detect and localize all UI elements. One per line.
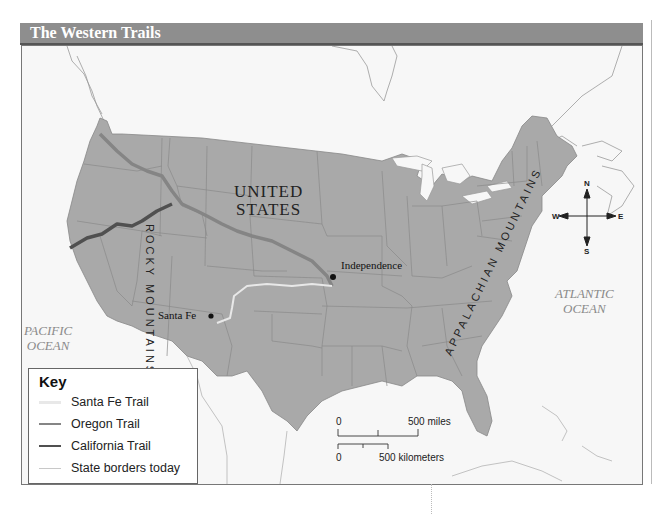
key-item-oregon-trail: Oregon Trail xyxy=(39,415,140,433)
city-label-santa-fe: Santa Fe xyxy=(158,309,196,321)
compass-west-label: W xyxy=(552,212,560,221)
key-item-label: California Trail xyxy=(71,439,151,453)
key-item-santa-fe-trail: Santa Fe Trail xyxy=(39,393,149,411)
scale-km-end: 500 kilometers xyxy=(379,452,444,463)
scale-km-start: 0 xyxy=(336,452,342,463)
atlantic-ocean-label: ATLANTIC OCEAN xyxy=(555,286,614,316)
compass-north-label: N xyxy=(584,179,590,188)
map-frame: UNITED STATES ROCKY MOUNTAINS APPALACHIA… xyxy=(21,45,643,485)
santa-fe-dot xyxy=(208,313,213,318)
compass-rose xyxy=(559,189,616,246)
scale-miles-start: 0 xyxy=(336,416,342,427)
page-margin-rule xyxy=(651,20,652,484)
scale-bars xyxy=(338,429,418,449)
page-dotted-rule xyxy=(431,484,432,514)
oregon-trail-swatch xyxy=(39,423,61,425)
pacific-line-2: OCEAN xyxy=(24,338,72,353)
pacific-ocean-label: PACIFIC OCEAN xyxy=(24,323,72,353)
key-title: Key xyxy=(39,373,67,390)
city-label-independence: Independence xyxy=(341,259,402,271)
map-key: Key Santa Fe Trail Oregon Trail Californ… xyxy=(28,368,198,484)
key-item-label: Santa Fe Trail xyxy=(71,395,149,409)
california-trail-swatch xyxy=(39,445,61,447)
compass-east-label: E xyxy=(618,212,623,221)
key-item-california-trail: California Trail xyxy=(39,437,151,455)
compass-south-label: S xyxy=(584,247,589,256)
map-title-bar: The Western Trails xyxy=(20,23,643,45)
country-line-2: STATES xyxy=(234,201,303,219)
country-label: UNITED STATES xyxy=(234,183,303,219)
map-title: The Western Trails xyxy=(30,24,161,42)
atlantic-line-2: OCEAN xyxy=(555,301,614,316)
pacific-line-1: PACIFIC xyxy=(24,323,72,338)
rocky-mountains-label: ROCKY MOUNTAINS xyxy=(144,224,156,376)
key-item-state-borders: State borders today xyxy=(39,459,180,477)
atlantic-line-1: ATLANTIC xyxy=(555,286,614,301)
scale-miles-end: 500 miles xyxy=(408,416,451,427)
country-line-1: UNITED xyxy=(234,183,303,201)
independence-dot xyxy=(330,274,336,280)
key-item-label: State borders today xyxy=(71,461,180,475)
santa-fe-trail-swatch xyxy=(39,401,61,404)
key-item-label: Oregon Trail xyxy=(71,417,140,431)
state-borders-swatch xyxy=(39,468,61,469)
